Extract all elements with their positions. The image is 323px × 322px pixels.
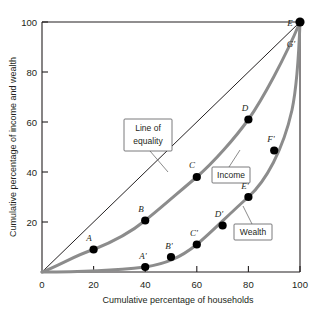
data-point-C-prime xyxy=(193,240,201,248)
data-point-F-prime xyxy=(270,146,278,154)
y-ticklabel-20: 20 xyxy=(26,217,37,228)
data-point-A-prime xyxy=(141,263,149,271)
leader-line-wealth xyxy=(243,206,252,224)
data-point-D xyxy=(244,115,252,123)
data-point-A xyxy=(90,245,98,253)
x-ticklabel-40: 40 xyxy=(140,279,151,290)
x-ticklabel-20: 20 xyxy=(88,279,99,290)
lorenz-curve-figure: 100 80 60 40 20 0 20 40 60 80 100 Cumula… xyxy=(0,0,323,322)
point-label-B: B xyxy=(138,204,144,214)
y-ticklabel-60: 60 xyxy=(26,117,37,128)
data-point-E xyxy=(295,17,304,26)
data-point-B-prime xyxy=(167,253,175,261)
point-label-C-prime: C' xyxy=(190,228,199,238)
y-ticklabel-0: 0 xyxy=(39,279,44,290)
leader-line-income xyxy=(229,150,240,167)
y-axis-title: Cumulative percentage of income and weal… xyxy=(8,57,18,237)
point-label-F-prime: F' xyxy=(266,134,275,144)
y-axis-tick-labels: 100 80 60 40 20 0 xyxy=(21,17,45,291)
point-label-C: C xyxy=(189,160,196,170)
x-axis-title: Cumulative percentage of households xyxy=(102,295,254,305)
callout-wealth-label: Wealth xyxy=(240,227,267,237)
x-ticklabel-80: 80 xyxy=(243,279,254,290)
callout-equality-line1: Line of xyxy=(135,123,161,133)
y-ticklabel-100: 100 xyxy=(21,17,37,28)
point-label-A: A xyxy=(85,233,92,243)
callout-line-of-equality: Line of equality xyxy=(124,119,172,172)
point-label-A-prime: A' xyxy=(138,251,147,261)
x-ticklabel-60: 60 xyxy=(192,279,203,290)
point-label-G-prime: G' xyxy=(287,39,296,49)
data-point-D-prime xyxy=(219,221,227,229)
y-axis-ticks xyxy=(42,22,48,222)
data-point-C xyxy=(193,173,201,181)
x-axis-tick-labels: 20 40 60 80 100 xyxy=(88,279,308,290)
x-ticklabel-100: 100 xyxy=(292,279,308,290)
leader-line-equality xyxy=(150,151,168,172)
chart-canvas: 100 80 60 40 20 0 20 40 60 80 100 Cumula… xyxy=(0,0,323,322)
point-label-B-prime: B' xyxy=(165,241,173,251)
point-label-D-prime: D' xyxy=(214,209,224,219)
point-label-D: D xyxy=(241,103,249,113)
data-point-E-prime xyxy=(244,193,252,201)
y-ticklabel-80: 80 xyxy=(26,67,37,78)
data-point-B xyxy=(141,216,149,224)
callout-income-label: Income xyxy=(217,170,245,180)
callout-equality-line2: equality xyxy=(133,136,163,146)
callout-wealth: Wealth xyxy=(234,206,272,240)
point-label-E: E xyxy=(286,18,293,28)
y-ticklabel-40: 40 xyxy=(26,167,37,178)
